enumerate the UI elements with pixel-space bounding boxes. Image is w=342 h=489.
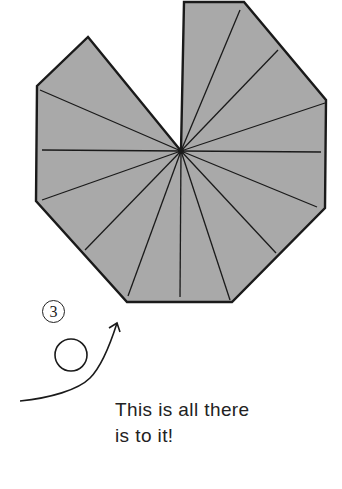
caption-line-2: is to it!	[115, 423, 250, 449]
step-number-badge: 3	[42, 300, 65, 323]
caption-line-1: This is all there	[115, 397, 250, 423]
turn-over-loop-icon	[55, 339, 87, 371]
turn-over-arrow-icon	[20, 323, 117, 401]
caption-text: This is all there is to it!	[115, 397, 250, 449]
